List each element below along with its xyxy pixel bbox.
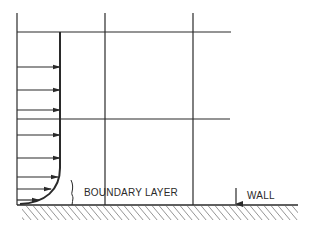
wall-hatching bbox=[20, 206, 300, 220]
boundary-layer-label: BOUNDARY LAYER bbox=[84, 187, 178, 198]
boundary-layer-diagram: BOUNDARY LAYER WALL bbox=[0, 0, 317, 236]
wall-label: WALL bbox=[247, 190, 275, 201]
velocity-arrows bbox=[17, 67, 60, 200]
velocity-profile-curve bbox=[20, 32, 60, 204]
grid bbox=[17, 13, 231, 205]
boundary-layer-brace bbox=[71, 180, 73, 205]
